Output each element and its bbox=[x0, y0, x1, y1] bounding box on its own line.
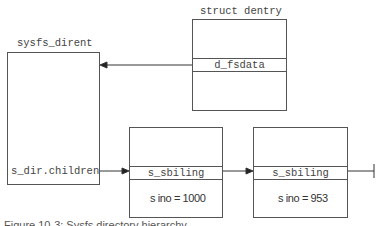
arrowhead-icon bbox=[122, 168, 129, 174]
figure-caption: Figure 10-3: Sysfs directory hierarchy bbox=[4, 219, 187, 226]
arrowhead-icon bbox=[246, 168, 253, 174]
connector-layer bbox=[0, 0, 382, 226]
arrowhead-icon bbox=[100, 62, 107, 68]
